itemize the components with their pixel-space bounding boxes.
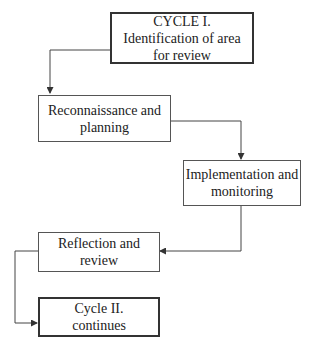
node-cycle2: Cycle II. continues (38, 297, 160, 337)
node-impl-line2: monitoring (211, 183, 273, 200)
node-cycle1-line2: Identification of area (123, 30, 240, 47)
arrow-impl-to-reflect (160, 205, 241, 251)
node-recon: Reconnaissance and planning (38, 95, 171, 142)
arrow-cycle1-to-recon (50, 50, 110, 93)
node-recon-line2: planning (80, 119, 129, 136)
arrow-reflect-to-cycle2 (15, 251, 38, 323)
node-reflect: Reflection and review (38, 232, 160, 272)
node-reflect-line1: Reflection and (58, 235, 140, 252)
node-reflect-line2: review (80, 252, 118, 269)
node-cycle1-line3: for review (153, 47, 211, 64)
node-recon-line1: Reconnaissance and (48, 102, 161, 119)
node-impl: Implementation and monitoring (183, 160, 301, 206)
arrow-recon-to-impl (171, 121, 241, 159)
node-cycle1-line1: CYCLE I. (153, 13, 211, 30)
node-cycle1: CYCLE I. Identification of area for revi… (110, 12, 254, 64)
node-impl-line1: Implementation and (186, 166, 298, 183)
node-cycle2-line2: continues (72, 317, 126, 334)
node-cycle2-line1: Cycle II. (75, 300, 124, 317)
